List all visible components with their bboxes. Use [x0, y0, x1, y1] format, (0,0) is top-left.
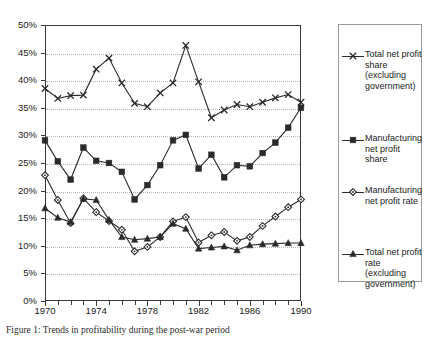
data-point-square [221, 175, 227, 181]
x-tick-mark [122, 301, 123, 305]
y-tick-label: 35% [18, 103, 37, 113]
data-point-diamond [350, 189, 357, 196]
y-tick-mark [41, 80, 45, 81]
data-point-x [106, 55, 112, 61]
data-point-x [157, 90, 163, 96]
legend-label: Total net profit rate (excluding governm… [365, 247, 422, 289]
data-point-square [260, 150, 266, 156]
x-tick-mark [275, 301, 276, 305]
data-point-diamond [298, 196, 305, 203]
x-tick-label: 1986 [239, 306, 260, 316]
chart-legend: Total net profit share (excluding govern… [338, 24, 422, 282]
x-tick-mark [211, 301, 212, 305]
y-tick-label: 30% [18, 130, 37, 140]
data-point-square [157, 162, 163, 168]
legend-label: Manufacturing net profit rate [365, 185, 422, 206]
data-point-square [183, 132, 189, 138]
data-point-x [183, 42, 189, 48]
figure-container: 0%5%10%15%20%25%30%35%40%45%50% 19701974… [0, 0, 424, 337]
y-tick-label: 25% [18, 158, 37, 168]
legend-marker-square-icon [342, 134, 364, 146]
data-point-triangle [55, 214, 61, 220]
x-tick-mark [83, 301, 84, 305]
x-tick-mark [45, 301, 46, 306]
data-point-diamond [208, 232, 215, 239]
y-tick-mark [41, 273, 45, 274]
data-point-x [259, 99, 265, 105]
data-point-square [247, 164, 253, 170]
legend-entry-1[interactable]: Manufacturing net profit share [342, 133, 422, 165]
data-point-square [234, 162, 240, 168]
x-tick-mark [135, 301, 136, 305]
x-tick-mark [224, 301, 225, 305]
data-point-x [350, 53, 356, 59]
legend-label: Total net profit share (excluding govern… [365, 49, 422, 91]
data-point-square [81, 145, 87, 151]
y-tick-label: 15% [18, 213, 37, 223]
y-tick-mark [41, 25, 45, 26]
figure-caption: Figure 1: Trends in profitability during… [6, 325, 336, 336]
x-tick-mark [237, 301, 238, 305]
x-tick-mark [160, 301, 161, 305]
data-point-diamond [221, 229, 228, 236]
data-point-x [93, 66, 99, 72]
data-point-square [298, 105, 304, 111]
data-point-diamond [118, 226, 125, 233]
x-tick-mark [173, 301, 174, 305]
legend-label: Manufacturing net profit share [365, 133, 422, 165]
data-point-square [132, 197, 138, 203]
data-point-square [170, 138, 176, 144]
x-axis: 197019741978198219861990 [0, 303, 424, 321]
data-point-x [272, 95, 278, 101]
y-tick-mark [41, 108, 45, 109]
y-tick-mark [41, 135, 45, 136]
x-tick-label: 1990 [290, 306, 311, 316]
data-point-square [119, 169, 125, 175]
data-point-x [119, 80, 125, 86]
x-tick-mark [109, 301, 110, 305]
data-point-x [298, 99, 304, 105]
series-1 [42, 105, 304, 202]
data-point-square [273, 140, 279, 146]
x-tick-mark [250, 301, 251, 306]
legend-entry-3[interactable]: Total net profit rate (excluding governm… [342, 247, 422, 289]
data-point-square [209, 152, 215, 158]
data-point-diamond [234, 237, 241, 244]
x-tick-label: 1970 [34, 306, 55, 316]
x-tick-mark [96, 301, 97, 306]
data-point-x [208, 115, 214, 121]
legend-entry-0[interactable]: Total net profit share (excluding govern… [342, 49, 422, 91]
legend-marker-diamond-icon [342, 186, 364, 198]
y-tick-mark [41, 246, 45, 247]
data-point-square [145, 182, 151, 188]
x-tick-label: 1982 [188, 306, 209, 316]
data-point-diamond [131, 248, 138, 255]
legend-entry-2[interactable]: Manufacturing net profit rate [342, 185, 422, 206]
x-tick-mark [71, 301, 72, 305]
x-tick-mark [186, 301, 187, 305]
y-tick-label: 20% [18, 186, 37, 196]
y-tick-mark [41, 191, 45, 192]
data-point-square [106, 160, 112, 166]
data-point-square [93, 158, 99, 164]
data-point-x [131, 100, 137, 106]
data-point-x [195, 79, 201, 85]
data-point-square [68, 177, 74, 183]
x-tick-mark [288, 301, 289, 305]
chart-series-layer [45, 25, 301, 301]
y-tick-label: 10% [18, 241, 37, 251]
y-tick-mark [41, 218, 45, 219]
x-tick-mark [301, 301, 302, 306]
y-tick-label: 40% [18, 75, 37, 85]
x-tick-mark [147, 301, 148, 306]
data-point-x [285, 91, 291, 97]
data-point-x [144, 103, 150, 109]
series-0 [42, 42, 304, 121]
data-point-diamond [54, 197, 61, 204]
data-point-square [196, 166, 202, 172]
data-point-square [350, 137, 356, 143]
x-tick-label: 1978 [137, 306, 158, 316]
data-point-triangle [350, 251, 356, 257]
data-point-diamond [182, 214, 189, 221]
x-tick-mark [199, 301, 200, 306]
